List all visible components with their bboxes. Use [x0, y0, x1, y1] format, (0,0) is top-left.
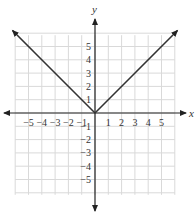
absolute-value-graph: −5−4−3−2−11234554321−1−2−3−4−5 x y: [0, 0, 196, 216]
axes: [4, 19, 186, 211]
y-tick-label: −5: [80, 174, 91, 185]
y-tick-label: −4: [80, 161, 91, 172]
y-tick-label: 1: [86, 94, 91, 105]
x-tick-label: 3: [132, 117, 137, 128]
x-tick-label: 1: [106, 117, 111, 128]
y-tick-label: 3: [86, 68, 91, 79]
y-tick-label: −2: [80, 134, 91, 145]
y-tick-label: −1: [80, 121, 91, 132]
x-tick-label: −4: [36, 117, 47, 128]
y-tick-label: 2: [86, 81, 91, 92]
x-tick-label: −5: [23, 117, 34, 128]
x-tick-label: 4: [146, 117, 151, 128]
x-axis-label: x: [188, 107, 194, 119]
x-tick-label: −2: [63, 117, 74, 128]
x-tick-label: 2: [119, 117, 124, 128]
y-axis-label: y: [91, 3, 97, 15]
y-tick-label: 5: [86, 41, 91, 52]
y-tick-label: 4: [86, 54, 91, 65]
x-tick-label: −3: [50, 117, 61, 128]
y-tick-label: −3: [80, 147, 91, 158]
x-tick-label: 5: [159, 117, 164, 128]
